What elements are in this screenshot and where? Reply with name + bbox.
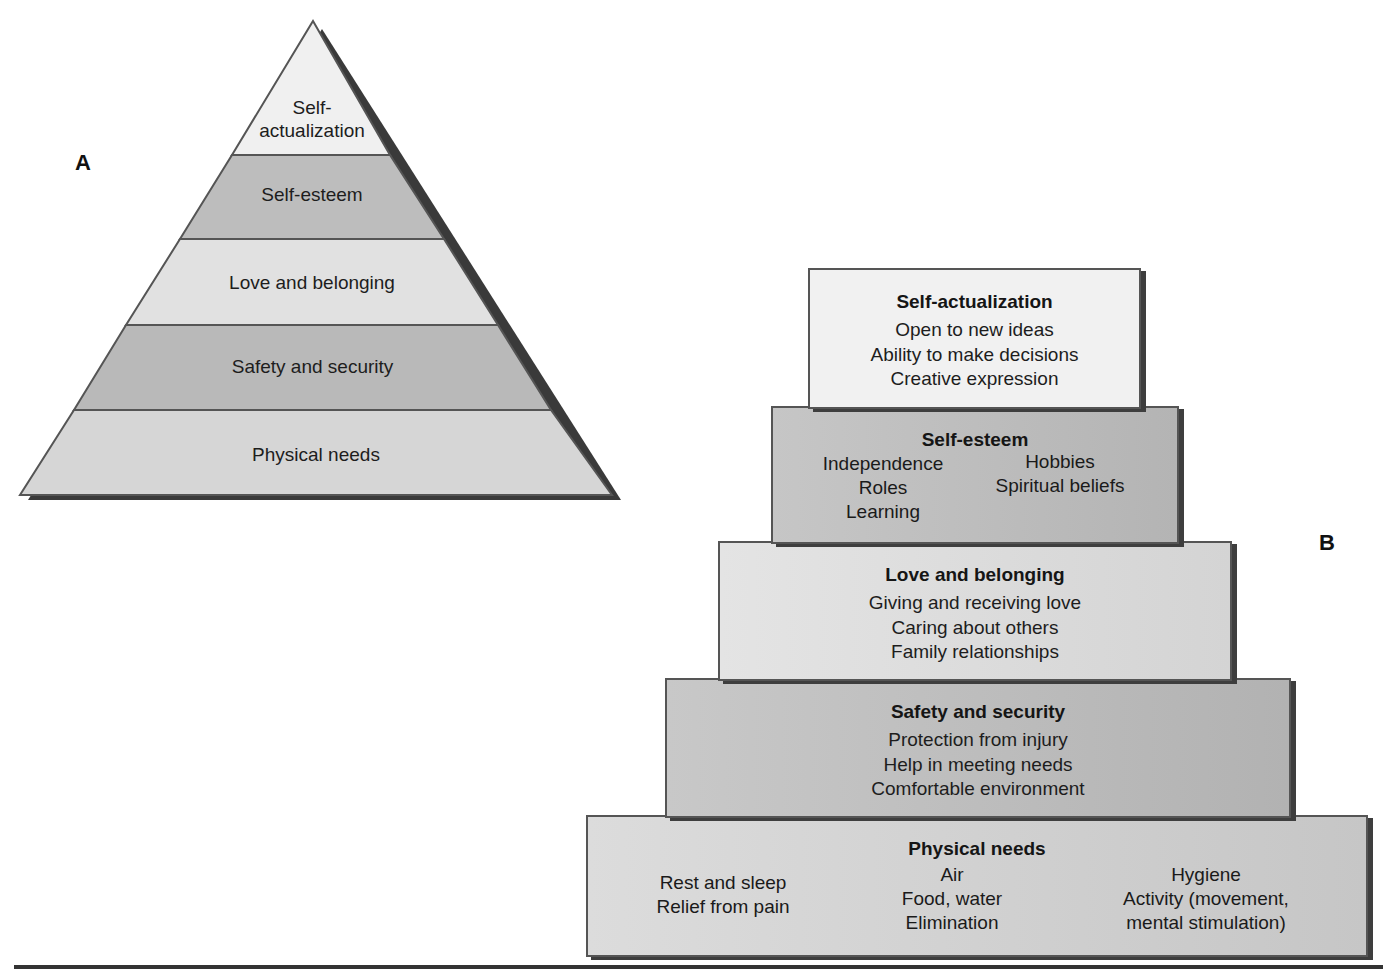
pyramid-a-safety-label: Safety and security <box>74 355 551 378</box>
pyramid-a-actualization-line2: actualization <box>232 119 392 142</box>
box-b-physical-col3: Hygiene Activity (movement, mental stimu… <box>1106 863 1306 935</box>
box-b-physical: Physical needs Rest and sleep Relief fro… <box>586 815 1368 957</box>
item: Open to new ideas <box>810 318 1139 343</box>
pyramid-a-actualization-label: Self- actualization <box>232 96 392 142</box>
item: Spiritual beliefs <box>985 474 1135 498</box>
item: Learning <box>813 500 953 524</box>
item: Hobbies <box>985 450 1135 474</box>
box-b-actualization-title: Self-actualization <box>810 290 1139 314</box>
item: Food, water <box>877 887 1027 911</box>
item: Rest and sleep <box>648 871 798 895</box>
item: Air <box>877 863 1027 887</box>
item: Family relationships <box>720 640 1230 665</box>
pyramid-a-physical-label: Physical needs <box>20 443 612 466</box>
box-b-actualization: Self-actualization Open to new ideas Abi… <box>808 268 1141 409</box>
box-b-safety: Safety and security Protection from inju… <box>665 678 1291 818</box>
panel-a-label: A <box>75 150 91 176</box>
item: Comfortable environment <box>667 777 1289 802</box>
item: Help in meeting needs <box>667 753 1289 778</box>
bottom-divider <box>14 965 1383 969</box>
item: Hygiene <box>1106 863 1306 887</box>
box-b-actualization-items: Open to new ideas Ability to make decisi… <box>810 318 1139 392</box>
item: Roles <box>813 476 953 500</box>
box-b-safety-items: Protection from injury Help in meeting n… <box>667 728 1289 802</box>
box-b-esteem-title: Self-esteem <box>773 428 1177 452</box>
item: Protection from injury <box>667 728 1289 753</box>
item: Ability to make decisions <box>810 343 1139 368</box>
box-b-love: Love and belonging Giving and receiving … <box>718 541 1232 681</box>
item: mental stimulation) <box>1106 911 1306 935</box>
pyramid-a-esteem-label: Self-esteem <box>180 183 444 206</box>
box-b-esteem-col2: Hobbies Spiritual beliefs <box>985 450 1135 524</box>
item: Elimination <box>877 911 1027 935</box>
item: Caring about others <box>720 616 1230 641</box>
item: Relief from pain <box>648 895 798 919</box>
box-b-physical-col2: Air Food, water Elimination <box>877 863 1027 935</box>
pyramid-a-actualization-line1: Self- <box>232 96 392 119</box>
item: Activity (movement, <box>1106 887 1306 911</box>
pyramid-a-love-label: Love and belonging <box>126 271 498 294</box>
item: Creative expression <box>810 367 1139 392</box>
box-b-esteem: Self-esteem Independence Roles Learning … <box>771 406 1179 544</box>
box-b-love-items: Giving and receiving love Caring about o… <box>720 591 1230 665</box>
panel-b-label: B <box>1319 530 1335 556</box>
box-b-esteem-col1: Independence Roles Learning <box>813 452 953 524</box>
pyramid-a-graphic <box>0 0 640 520</box>
box-b-physical-title: Physical needs <box>588 837 1366 861</box>
box-b-physical-col1: Rest and sleep Relief from pain <box>648 871 798 935</box>
box-b-safety-title: Safety and security <box>667 700 1289 724</box>
box-b-love-title: Love and belonging <box>720 563 1230 587</box>
item: Independence <box>813 452 953 476</box>
item: Giving and receiving love <box>720 591 1230 616</box>
